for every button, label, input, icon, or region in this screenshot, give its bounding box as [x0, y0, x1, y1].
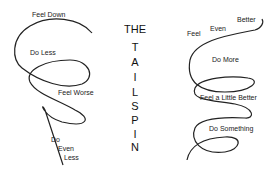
label-even: Even: [58, 145, 74, 152]
title-letter: N: [120, 142, 150, 153]
title-letter: I: [120, 129, 150, 140]
label-feel: Feel: [187, 30, 201, 37]
title-letter: L: [120, 87, 150, 98]
label-better: Better: [237, 16, 256, 23]
label-feel-a-little-better: Feel a Little Better: [200, 94, 257, 101]
title-letter: A: [120, 57, 150, 68]
title-the: THE: [120, 24, 150, 35]
right-upward-spiral: [187, 19, 263, 160]
label-do-something: Do Something: [209, 125, 253, 132]
label-feel-worse: Feel Worse: [58, 89, 94, 96]
label-even-right: Even: [210, 25, 226, 32]
label-do: Do: [51, 136, 60, 143]
title-letter: T: [120, 42, 150, 53]
label-do-less: Do Less: [30, 49, 56, 56]
label-feel-down: Feel Down: [32, 11, 65, 18]
title-letter: P: [120, 115, 150, 126]
label-do-more: Do More: [212, 56, 239, 63]
title-letter: S: [120, 101, 150, 112]
label-less: Less: [64, 154, 79, 161]
title-letter: I: [120, 72, 150, 83]
